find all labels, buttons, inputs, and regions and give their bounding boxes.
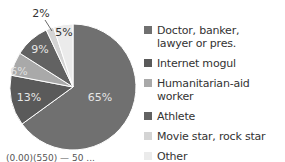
slice-label: 13%: [17, 91, 41, 104]
legend-item-humanitarian: Humanitarian-aid worker: [144, 77, 284, 103]
legend-swatch: [144, 152, 152, 160]
legend-swatch: [144, 26, 152, 34]
legend-label: Internet mogul: [157, 57, 284, 70]
legend-item-movie-star: Movie star, rock star: [144, 130, 284, 143]
legend-swatch: [144, 112, 152, 120]
legend-swatch: [144, 59, 152, 67]
legend-item-athlete: Athlete: [144, 110, 284, 123]
slice-label: 5%: [55, 26, 72, 39]
pie-chart: 65%13%6%9%2%5%: [0, 0, 145, 162]
legend-label: Movie star, rock star: [157, 130, 284, 143]
legend-item-doctor: Doctor, banker, lawyer or pres.: [144, 24, 284, 50]
legend-label: Athlete: [157, 110, 284, 123]
legend-label: Humanitarian-aid worker: [157, 77, 284, 103]
legend-swatch: [144, 79, 152, 87]
slice-label: 9%: [31, 43, 48, 56]
slice-label: 65%: [88, 91, 112, 104]
legend-label-cont: lawyer or pres.: [157, 37, 284, 50]
legend-item-other: Other: [144, 150, 284, 162]
footer-note: (0.00)(550) — 50 ...: [6, 153, 95, 162]
slice-label: 6%: [10, 65, 27, 78]
legend-item-internet-mogul: Internet mogul: [144, 57, 284, 70]
slice-label: 2%: [32, 7, 49, 20]
legend-label: Other: [157, 150, 284, 162]
legend-label: Doctor, banker,: [157, 24, 284, 37]
legend-swatch: [144, 132, 152, 140]
legend: Doctor, banker, lawyer or pres. Internet…: [144, 24, 284, 162]
